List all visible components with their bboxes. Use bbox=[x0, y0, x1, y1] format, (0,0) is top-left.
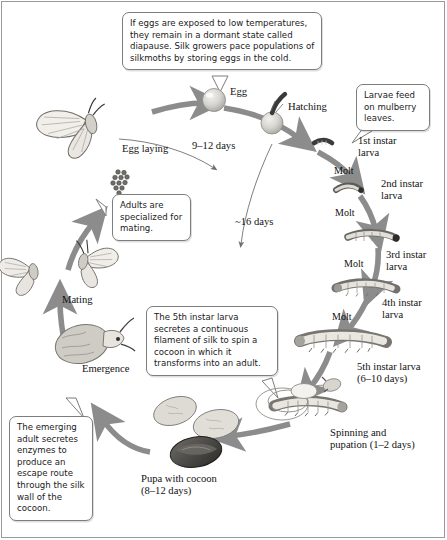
fourth-instar-larva-art bbox=[334, 283, 396, 297]
label-hatching: Hatching bbox=[288, 101, 327, 113]
callout-fifth-instar-silk-text: The 5th instar larva secretes a continuo… bbox=[154, 312, 271, 370]
label-emergence: Emergence bbox=[82, 363, 129, 375]
label-egg-laying: Egg laying bbox=[122, 143, 168, 155]
label-mating: Mating bbox=[62, 294, 93, 306]
label-molt-1: Molt bbox=[334, 165, 353, 177]
duration-arc-larval bbox=[241, 144, 272, 244]
label-molt-3: Molt bbox=[344, 258, 363, 270]
label-duration-egg-stage: 9–12 days bbox=[192, 140, 235, 152]
callout-egg-diapause: If eggs are exposed to low temperatures,… bbox=[122, 12, 322, 70]
leader-emerging-adult bbox=[66, 398, 84, 418]
cocoon-group-art bbox=[150, 391, 242, 471]
callout-egg-diapause-text: If eggs are exposed to low temperatures,… bbox=[130, 18, 315, 64]
silk-filament-art bbox=[256, 384, 330, 421]
callout-adults-mating: Adults are specialized for mating. bbox=[112, 194, 191, 241]
label-molt-2: Molt bbox=[335, 207, 354, 219]
egg-laying-moth-art bbox=[34, 96, 116, 165]
second-instar-larva-art bbox=[336, 186, 364, 193]
label-first-instar: 1st instar larva bbox=[358, 135, 397, 159]
mating-moths-art bbox=[0, 238, 121, 298]
hatching-art bbox=[261, 94, 285, 134]
fifth-instar-larva-art bbox=[295, 335, 386, 353]
silkworm-life-cycle-figure: If eggs are exposed to low temperatures,… bbox=[0, 0, 447, 540]
callout-emerging-adult-enzymes-text: The emerging adult secretes enzymes to p… bbox=[17, 422, 86, 515]
callout-fifth-instar-silk: The 5th instar larva secretes a continuo… bbox=[146, 306, 278, 376]
callout-larvae-feeding: Larvae feed on mulberry leaves. bbox=[356, 84, 430, 131]
label-spinning-pupation: Spinning and pupation (1–2 days) bbox=[330, 427, 415, 451]
callout-emerging-adult-enzymes: The emerging adult secretes enzymes to p… bbox=[9, 416, 93, 521]
label-second-instar: 2nd instar larva bbox=[381, 178, 423, 202]
label-egg: Egg bbox=[230, 86, 247, 98]
cycle-arrow-ring bbox=[60, 103, 378, 452]
label-fourth-instar: 4th instar larva bbox=[382, 297, 422, 321]
callout-larvae-feeding-text: Larvae feed on mulberry leaves. bbox=[364, 90, 423, 125]
spinning-larva-art bbox=[274, 401, 347, 417]
emerging-adult-art bbox=[51, 318, 135, 369]
callout-adults-mating-text: Adults are specialized for mating. bbox=[120, 200, 184, 235]
third-instar-larva-art bbox=[348, 232, 399, 241]
label-third-instar: 3rd instar larva bbox=[386, 249, 426, 273]
label-duration-larval-stage: ~16 days bbox=[235, 216, 273, 228]
label-fifth-instar: 5th instar larva (6–10 days) bbox=[357, 361, 421, 385]
leader-fifth-instar bbox=[262, 378, 278, 398]
leader-egg-diapause bbox=[212, 76, 228, 92]
label-pupa-with-cocoon: Pupa with cocoon (8–12 days) bbox=[141, 473, 217, 497]
leader-adults-mating bbox=[96, 199, 106, 216]
pupa-inside-silk-art bbox=[322, 377, 343, 393]
laid-eggs-art bbox=[111, 170, 130, 196]
first-instar-larva-art bbox=[314, 140, 332, 145]
label-molt-4: Molt bbox=[332, 311, 351, 323]
egg-art bbox=[203, 89, 226, 112]
